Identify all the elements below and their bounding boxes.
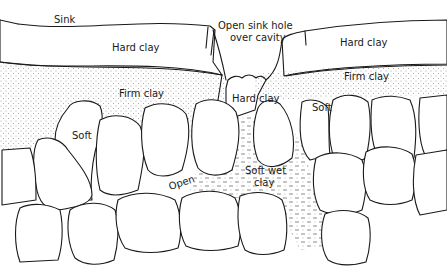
- label-firm-clay-right: Firm clay: [344, 71, 389, 82]
- label-open-sink-hole: Open sink hole: [218, 20, 293, 31]
- sinkhole-cross-section-diagram: Sink Open sink hole over cavity Hard cla…: [0, 0, 447, 274]
- label-over-cavity: over cavity: [230, 32, 286, 43]
- label-firm-clay-left: Firm clay: [119, 88, 164, 99]
- label-sink: Sink: [54, 14, 75, 25]
- label-hard-clay-right: Hard clay: [340, 37, 388, 48]
- label-soft-wet-clay-2: clay: [254, 177, 274, 188]
- label-hard-clay-center: Hard clay: [232, 93, 280, 104]
- label-soft-left: Soft: [72, 130, 92, 141]
- label-soft-right: Soft: [312, 102, 332, 113]
- label-hard-clay-left: Hard clay: [112, 42, 160, 53]
- label-soft-wet-clay-1: Soft wet: [245, 165, 286, 176]
